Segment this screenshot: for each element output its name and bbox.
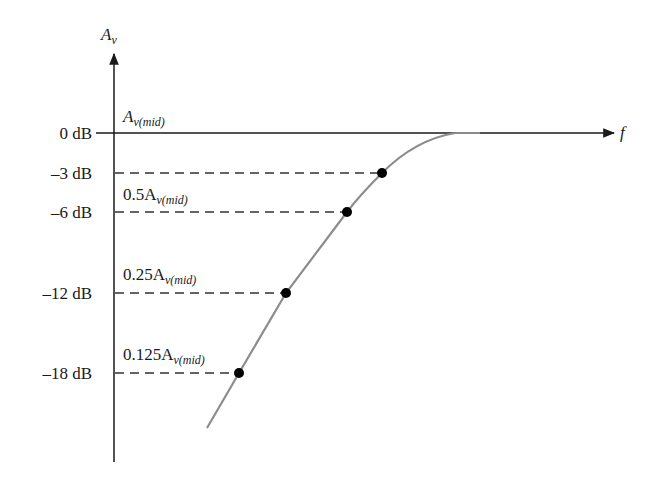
x-axis-label: f bbox=[620, 123, 627, 142]
tick-6db: –6 dB bbox=[50, 203, 92, 222]
bode-plot: Av f Av(mid) 0 dB –3 dB –6 dB –12 dB –18… bbox=[0, 0, 658, 485]
tick-3db: –3 dB bbox=[50, 164, 92, 183]
reference-label: Av(mid) bbox=[122, 107, 165, 129]
point-18db bbox=[234, 368, 244, 378]
tick-0db: 0 dB bbox=[59, 124, 92, 143]
gain-label-18db: 0.125Av(mid) bbox=[123, 345, 205, 367]
point-6db bbox=[342, 207, 352, 217]
tick-18db: –18 dB bbox=[41, 364, 92, 383]
response-curve bbox=[207, 133, 480, 428]
y-axis-label: Av bbox=[100, 25, 117, 47]
gain-label-6db: 0.5Av(mid) bbox=[123, 185, 188, 207]
marked-points bbox=[234, 168, 387, 378]
gain-label-12db: 0.25Av(mid) bbox=[123, 265, 196, 287]
point-3db bbox=[377, 168, 387, 178]
point-12db bbox=[281, 288, 291, 298]
tick-12db: –12 dB bbox=[41, 284, 92, 303]
